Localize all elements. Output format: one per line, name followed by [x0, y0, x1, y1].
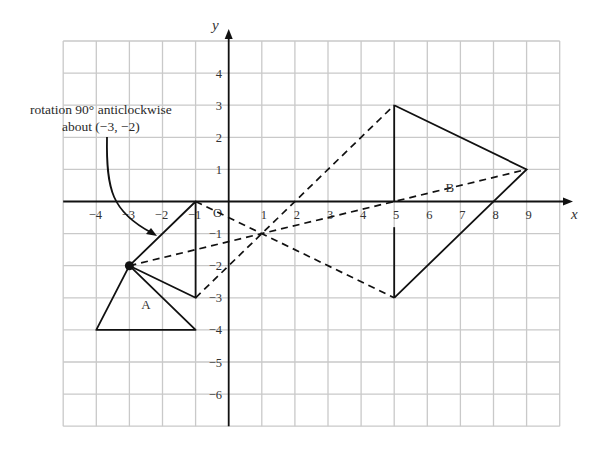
y-tick-label: 4: [216, 67, 223, 81]
y-axis-label: y: [210, 17, 219, 33]
x-tick-label: 8: [492, 208, 498, 222]
x-tick-label: 6: [426, 208, 432, 222]
x-tick-label: 4: [360, 208, 367, 222]
y-tick-label: −5: [209, 356, 222, 370]
annotation-line-1: rotation 90° anticlockwise: [30, 102, 172, 117]
x-tick-label: 5: [393, 208, 399, 222]
y-tick-label: −4: [209, 323, 223, 337]
y-tick-label: 1: [216, 163, 222, 177]
x-axis-arrow-icon: [563, 198, 573, 206]
coordinate-plane: x y O −4−3−2−11234567894321−1−2−3−4−5−6 …: [0, 0, 606, 451]
annotation-line-2: about (−3, −2): [62, 119, 140, 134]
x-tick-label: 9: [525, 208, 531, 222]
y-tick-label: −3: [209, 291, 222, 305]
x-axis-label: x: [570, 206, 578, 222]
y-tick-label: 3: [216, 99, 222, 113]
centre-of-rotation-dot: [125, 261, 134, 270]
shape-label-A: A: [141, 297, 151, 312]
grid-lines: [63, 41, 560, 426]
shape-label-B: B: [446, 180, 455, 195]
x-tick-label: −2: [155, 208, 168, 222]
coordinate-diagram: x y O −4−3−2−11234567894321−1−2−3−4−5−6 …: [0, 0, 606, 451]
x-tick-label: 2: [294, 208, 300, 222]
arrowhead-icon: [146, 228, 157, 236]
x-tick-label: −1: [188, 208, 201, 222]
y-axis-arrow-icon: [225, 29, 233, 39]
y-tick-label: −2: [209, 259, 222, 273]
x-tick-label: 3: [327, 208, 333, 222]
y-tick-label: −1: [209, 227, 222, 241]
x-tick-label: 1: [261, 208, 267, 222]
y-tick-label: −6: [209, 388, 222, 402]
y-tick-label: 2: [216, 131, 222, 145]
x-tick-label: 7: [459, 208, 465, 222]
axes: x y O: [63, 17, 578, 426]
x-tick-label: −4: [89, 208, 103, 222]
